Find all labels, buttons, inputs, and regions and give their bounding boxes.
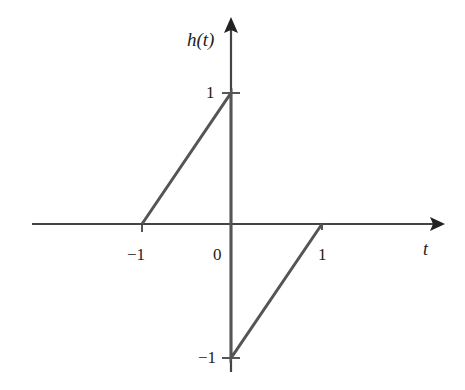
tick-label-y-1: 1 xyxy=(206,84,215,101)
chart-svg xyxy=(0,0,465,390)
tick-label-y-neg1: −1 xyxy=(198,349,216,366)
y-axis-label: h(t) xyxy=(187,30,214,49)
signal-curve xyxy=(142,93,322,358)
x-axis-label: t xyxy=(423,240,428,258)
tick-label-x-neg1: −1 xyxy=(127,246,145,263)
plot-area: h(t) t −1 0 1 1 −1 xyxy=(0,0,465,390)
tick-label-x-1: 1 xyxy=(318,246,327,263)
tick-label-x-0: 0 xyxy=(213,246,222,263)
